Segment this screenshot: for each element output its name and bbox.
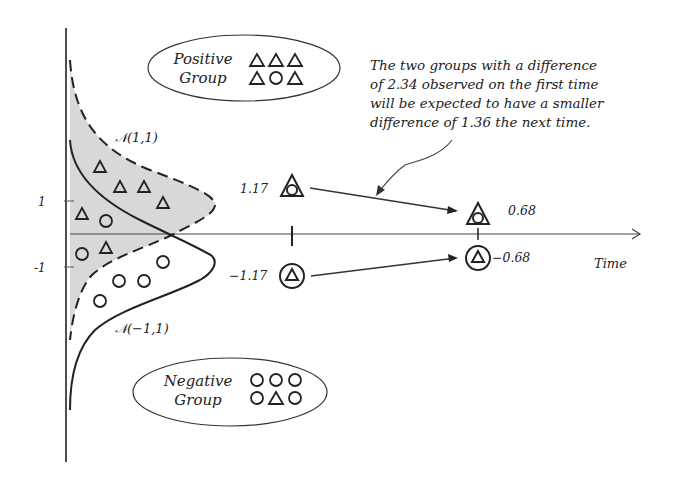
first-negative-marker bbox=[280, 264, 304, 288]
circle-point bbox=[94, 295, 106, 307]
positive-group-label: Positive Group bbox=[160, 50, 246, 88]
next-positive-marker bbox=[467, 203, 489, 224]
annotation-pointer bbox=[378, 140, 452, 193]
circle-point bbox=[113, 275, 125, 287]
annotation-text: The two groups with a difference of 2.34… bbox=[370, 56, 680, 132]
positive-group-label-line2: Group bbox=[160, 69, 246, 88]
circle-point bbox=[157, 256, 169, 268]
next-positive-value: 0.68 bbox=[508, 205, 536, 218]
negative-group-symbols bbox=[251, 374, 301, 404]
annotation-line-4: difference of 1.36 the next time. bbox=[370, 113, 680, 132]
y-tick-label-1: 1 bbox=[38, 196, 46, 208]
annotation-line-2: of 2.34 observed on the first time bbox=[370, 75, 680, 94]
annotation-line-1: The two groups with a difference bbox=[370, 56, 680, 75]
positive-regression-arrow bbox=[310, 188, 456, 211]
circle-point bbox=[138, 275, 150, 287]
positive-group-symbols bbox=[250, 54, 302, 84]
positive-group-label-line1: Positive bbox=[160, 50, 246, 69]
negative-group-label-line1: Negative bbox=[152, 372, 244, 391]
first-positive-marker bbox=[281, 175, 303, 196]
negative-regression-arrow bbox=[311, 258, 456, 276]
positive-distribution-label: 𝒩(1,1) bbox=[115, 131, 158, 144]
annotation-line-3: will be expected to have a smaller bbox=[370, 94, 680, 113]
next-negative-value: −0.68 bbox=[492, 252, 530, 265]
first-negative-value: −1.17 bbox=[229, 270, 267, 283]
first-positive-value: 1.17 bbox=[240, 183, 268, 196]
negative-distribution-label: 𝒩(−1,1) bbox=[115, 322, 169, 335]
negative-group-label-line2: Group bbox=[152, 391, 244, 410]
y-tick-label-neg1: -1 bbox=[34, 262, 46, 274]
next-negative-marker bbox=[466, 246, 490, 270]
negative-group-label: Negative Group bbox=[152, 372, 244, 410]
x-axis-label: Time bbox=[594, 257, 627, 270]
positive-distribution-fill bbox=[70, 60, 215, 340]
